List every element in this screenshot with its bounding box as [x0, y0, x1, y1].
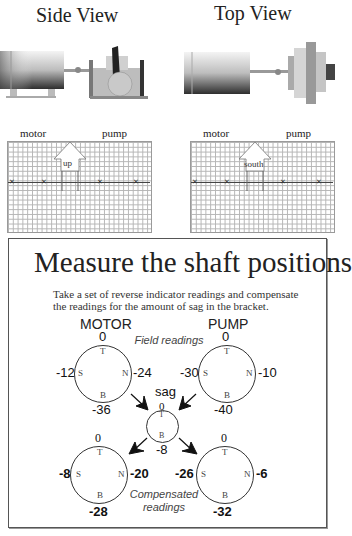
pump-front-foot-marker-icon: ✕	[97, 179, 103, 186]
side-view-title: Side View	[36, 4, 118, 27]
top-view-title: Top View	[214, 2, 292, 25]
side-view-machine-illustration	[0, 38, 160, 103]
dial-letter-south: S	[203, 368, 208, 378]
dial-letter-north: N	[244, 469, 251, 479]
dial-letter-bottom: B	[97, 490, 103, 500]
motor-front-foot-marker-icon: ✕	[9, 179, 15, 186]
top-view-machine-illustration	[180, 38, 335, 108]
shaft-position-panel	[8, 238, 327, 528]
motor-rear-foot-marker-icon: ✕	[224, 179, 230, 186]
dial-letter-bottom: B	[159, 431, 164, 440]
south-arrow-label: south	[244, 159, 264, 169]
dial-letter-bottom: B	[222, 490, 228, 500]
dial-letter-bottom: B	[100, 390, 106, 400]
compensated-label-line-2: readings	[128, 501, 200, 514]
dial-letter-north: N	[118, 469, 125, 479]
dial-letter-north: N	[122, 368, 129, 378]
field-readings-label: Field readings	[132, 334, 206, 347]
field-motor-south-reading: -12	[56, 366, 75, 380]
panel-title: Measure the shaft positions	[34, 246, 352, 279]
instructions-line-1: Take a set of reverse indicator readings…	[53, 288, 298, 300]
comp-motor-south-reading: -8	[59, 467, 71, 481]
pump-rear-foot-marker-icon: ✕	[316, 179, 322, 186]
comp-pump-top-reading: 0	[221, 431, 227, 445]
field-pump-top-reading: 0	[222, 330, 229, 344]
motor-rear-foot-marker-icon: ✕	[41, 179, 47, 186]
comp-motor-bottom-reading: -28	[89, 505, 108, 519]
dial-letter-south: S	[78, 368, 83, 378]
dial-letter-top: T	[97, 447, 103, 457]
top-view-pump-label: pump	[286, 127, 311, 139]
field-motor-north-reading: -24	[133, 366, 152, 380]
field-motor-bottom-reading: -36	[92, 403, 111, 417]
side-view-motor-label: motor	[20, 127, 46, 139]
dial-letter-top: T	[222, 447, 228, 457]
up-arrow-label: up	[63, 158, 72, 168]
dial-letter-top: T	[224, 346, 230, 356]
compensated-readings-label: Compensated readings	[128, 488, 200, 514]
dial-letter-north: N	[246, 368, 253, 378]
sag-bottom-reading: -8	[156, 443, 168, 457]
side-view-pump-label: pump	[102, 127, 127, 139]
comp-pump-south-reading: -26	[175, 467, 194, 481]
sag-label: sag	[155, 385, 176, 399]
motor-front-foot-marker-icon: ✕	[192, 179, 198, 186]
comp-pump-north-reading: -6	[256, 467, 268, 481]
pump-front-foot-marker-icon: ✕	[280, 179, 286, 186]
instructions-line-2: the readings for the amount of sag in th…	[53, 300, 269, 312]
dial-letter-south: S	[76, 469, 81, 479]
dial-letter-top: T	[100, 346, 106, 356]
field-motor-top-reading: 0	[99, 330, 106, 344]
dial-letter-bottom: B	[224, 390, 230, 400]
comp-motor-top-reading: 0	[95, 431, 101, 445]
comp-pump-bottom-reading: -32	[213, 505, 232, 519]
dial-letter-top: T	[159, 410, 164, 419]
top-view-motor-label: motor	[203, 127, 229, 139]
pump-rear-foot-marker-icon: ✕	[133, 179, 139, 186]
dial-letter-south: S	[201, 469, 206, 479]
field-pump-bottom-reading: -40	[214, 403, 233, 417]
comp-motor-north-reading: -20	[130, 467, 149, 481]
compensated-label-line-1: Compensated	[128, 488, 200, 501]
field-pump-north-reading: -10	[258, 366, 277, 380]
field-pump-south-reading: -30	[180, 366, 199, 380]
